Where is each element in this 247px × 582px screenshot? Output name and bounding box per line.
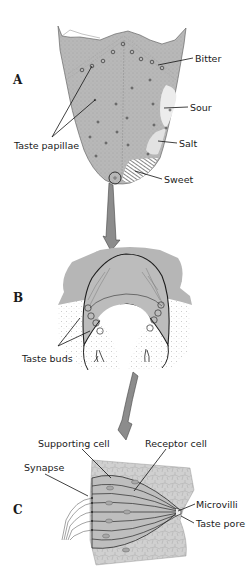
label-receptor-cell: Receptor cell bbox=[145, 438, 207, 449]
label-salt: Salt bbox=[179, 138, 197, 149]
label-supporting-cell: Supporting cell bbox=[38, 438, 110, 449]
panel-letter-a: A bbox=[12, 73, 23, 87]
zoom-arrow-b-to-c bbox=[118, 372, 138, 440]
panel-letter-c: C bbox=[13, 503, 23, 517]
label-sweet: Sweet bbox=[164, 174, 193, 185]
label-sour: Sour bbox=[190, 102, 212, 113]
label-taste-papillae: Taste papillae bbox=[13, 140, 79, 151]
panel-letter-b: B bbox=[13, 291, 23, 305]
panel-b: B bbox=[13, 247, 192, 370]
nerve-fibers bbox=[62, 498, 92, 540]
panel-c: C bbox=[13, 438, 245, 565]
zoom-arrow-a-to-b bbox=[103, 183, 120, 251]
label-bitter: Bitter bbox=[195, 53, 221, 64]
panel-a: A bbox=[12, 26, 221, 185]
taste-diagram: A bbox=[0, 0, 247, 582]
label-synapse: Synapse bbox=[24, 462, 64, 473]
label-taste-pore: Taste pore bbox=[195, 518, 245, 529]
label-microvilli: Microvilli bbox=[196, 499, 238, 510]
tongue bbox=[58, 26, 186, 184]
label-taste-buds: Taste buds bbox=[21, 353, 73, 364]
